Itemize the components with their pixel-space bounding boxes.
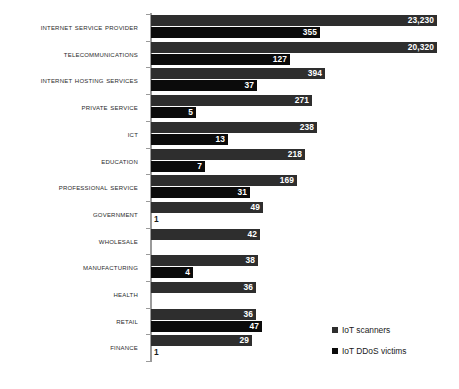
bar-value-wrap: 4 [151, 267, 193, 278]
bar-value-label: 20,320 [408, 42, 434, 53]
bar-group: 384 [151, 255, 446, 278]
axis-tick [146, 174, 151, 175]
axis-tick [146, 41, 151, 42]
bar-chart: Internet Service ProviderTelecommunicati… [0, 0, 459, 389]
bar-value-wrap: 127 [151, 54, 290, 65]
category-axis-labels: Internet Service ProviderTelecommunicati… [0, 14, 145, 361]
bar-value-label: 1 [154, 214, 159, 225]
category-label: Internet Hosting Services [0, 75, 138, 85]
bar-group: 2715 [151, 95, 446, 118]
bar-group: 2187 [151, 149, 446, 172]
bar-value-wrap: 36 [151, 309, 256, 320]
category-label: ICT [0, 129, 138, 139]
bar-value-label: 23,230 [408, 15, 434, 26]
bar-value-label: 4 [185, 267, 190, 278]
bar-value-wrap: 169 [151, 175, 297, 186]
bar-value-label: 42 [247, 229, 257, 240]
bar-value-wrap: 271 [151, 95, 312, 106]
category-label: Telecommunications [0, 49, 138, 59]
legend-item-iot-ddos-victims: IoT DDoS victims [332, 346, 452, 356]
bar-value-wrap: 47 [151, 321, 262, 332]
category-label: Health [0, 289, 138, 299]
bar-value-label: 36 [243, 282, 253, 293]
axis-tick [146, 14, 151, 15]
bar-value-wrap: 7 [151, 161, 205, 172]
bar-value-wrap: 20,320 [151, 42, 437, 53]
bar-group: 36 [151, 282, 446, 305]
bar-value-label: 169 [280, 175, 294, 186]
bar-value-label: 47 [249, 321, 259, 332]
bar-group: 23,230355 [151, 15, 446, 38]
bar-value-label: 238 [300, 122, 314, 133]
chart-legend: IoT scanners IoT DDoS victims [332, 325, 452, 367]
bar-value-label: 29 [239, 335, 249, 346]
bar-value-wrap: 238 [151, 122, 317, 133]
axis-tick [146, 334, 151, 335]
bar-value-label: 38 [245, 255, 255, 266]
axis-tick [146, 201, 151, 202]
axis-tick [146, 121, 151, 122]
bar-value-wrap: 29 [151, 335, 252, 346]
axis-tick [146, 228, 151, 229]
bar-group: 491 [151, 202, 446, 225]
category-label: Manufacturing [0, 262, 138, 272]
bar-value-wrap: 13 [151, 134, 228, 145]
legend-label: IoT scanners [342, 325, 390, 335]
bar-value-label: 37 [244, 80, 254, 91]
bar-value-label: 7 [197, 161, 202, 172]
legend-label: IoT DDoS victims [342, 346, 407, 356]
bar-group: 20,320127 [151, 42, 446, 65]
axis-tick [146, 308, 151, 309]
category-label: Wholesale [0, 236, 138, 246]
bar-value-wrap: 355 [151, 27, 320, 38]
axis-tick [146, 254, 151, 255]
bar-group: 39437 [151, 68, 446, 91]
bar-value-wrap: 218 [151, 149, 305, 160]
legend-swatch-icon [332, 348, 338, 354]
axis-tick [146, 361, 151, 362]
category-label: Internet Service Provider [0, 22, 138, 32]
bar-value-wrap: 37 [151, 80, 257, 91]
bar-value-wrap: 36 [151, 282, 256, 293]
bar-value-label: 31 [237, 187, 247, 198]
bar-value-label: 1 [154, 347, 159, 358]
bar-value-label: 394 [308, 68, 322, 79]
bar-value-label: 36 [243, 309, 253, 320]
category-label: Education [0, 156, 138, 166]
bar-value-wrap: 31 [151, 187, 250, 198]
bar-value-wrap: 23,230 [151, 15, 437, 26]
bar-value-wrap: 49 [151, 202, 263, 213]
category-label: Finance [0, 342, 138, 352]
bar-group: 23813 [151, 122, 446, 145]
legend-item-iot-scanners: IoT scanners [332, 325, 452, 335]
bar-value-label: 49 [250, 202, 260, 213]
bar-value-label: 271 [295, 95, 309, 106]
bar-value-label: 218 [288, 149, 302, 160]
category-label: Private Service [0, 102, 138, 112]
bar-value-wrap: 42 [151, 229, 260, 240]
axis-tick [146, 94, 151, 95]
bar-value-label: 355 [303, 27, 317, 38]
axis-tick [146, 281, 151, 282]
bar-value-wrap: 5 [151, 107, 196, 118]
bar-value-label: 5 [188, 107, 193, 118]
axis-tick [146, 67, 151, 68]
legend-swatch-icon [332, 327, 338, 333]
bar-group: 42 [151, 229, 446, 252]
bar-value-wrap: 38 [151, 255, 258, 266]
category-label: Government [0, 209, 138, 219]
category-label: Professional Service [0, 182, 138, 192]
bar-value-wrap: 394 [151, 68, 325, 79]
bar-value-label: 13 [215, 134, 225, 145]
category-label: Retail [0, 316, 138, 326]
bar-group: 16931 [151, 175, 446, 198]
axis-tick [146, 148, 151, 149]
plot-area: 23,23035520,3201273943727152381321871693… [151, 14, 446, 361]
bar-value-label: 127 [273, 54, 287, 65]
